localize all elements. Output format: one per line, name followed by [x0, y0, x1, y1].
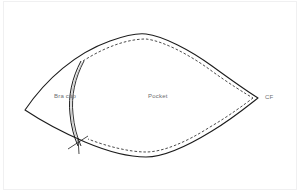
center-front-label: CF: [265, 94, 273, 100]
bra-cup-label: Bra cup: [54, 93, 76, 99]
pocket-label: Pocket: [148, 93, 168, 99]
pattern-diagram-page: Bra cup Pocket CF: [0, 0, 305, 193]
